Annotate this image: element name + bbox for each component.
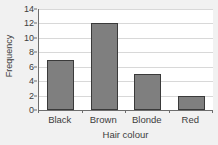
x-axis-tick-mark <box>169 110 170 113</box>
x-axis-tick-mark <box>38 110 39 113</box>
x-axis-tick-label: Blonde <box>132 114 162 126</box>
plot-area <box>38 9 213 111</box>
x-axis-tick-labels: BlackBrownBlondeRed <box>38 114 213 127</box>
x-axis-tick-label: Red <box>182 114 199 126</box>
x-axis-tick-label: Black <box>48 114 71 126</box>
bar-red <box>178 96 205 110</box>
y-axis-tick-label: 12 <box>18 19 34 28</box>
bars-layer <box>39 9 213 110</box>
y-axis-tick-label: 14 <box>18 5 34 14</box>
y-axis-tick-mark <box>34 81 37 82</box>
y-axis-tick-mark <box>34 9 37 10</box>
y-axis-tick-label: 8 <box>18 48 34 57</box>
x-axis-tick-mark <box>212 110 213 113</box>
x-axis-tick-mark <box>82 110 83 113</box>
y-axis-tick-mark <box>34 110 37 111</box>
y-axis-tick-labels: 02468101214 <box>18 0 37 118</box>
y-axis-tick-label: 0 <box>18 106 34 115</box>
y-axis-title: Frequency <box>0 0 18 112</box>
x-axis-tick-mark <box>125 110 126 113</box>
bar-chart-figure: Frequency 02468101214 BlackBrownBlondeRe… <box>0 0 218 145</box>
x-axis-title: Hair colour <box>38 129 213 140</box>
y-axis-tick-mark <box>34 66 37 67</box>
y-axis-title-text: Frequency <box>4 35 14 78</box>
y-axis-tick-label: 4 <box>18 77 34 86</box>
y-axis-tick-mark <box>34 37 37 38</box>
y-axis-tick-mark <box>34 95 37 96</box>
bar-blonde <box>134 74 161 110</box>
y-axis-tick-label: 2 <box>18 91 34 100</box>
y-axis-tick-label: 6 <box>18 62 34 71</box>
bar-brown <box>91 23 118 110</box>
y-axis-tick-mark <box>34 52 37 53</box>
bar-black <box>47 60 74 111</box>
y-axis-tick-mark <box>34 23 37 24</box>
y-axis-tick-label: 10 <box>18 33 34 42</box>
x-axis-tick-label: Brown <box>90 114 117 126</box>
